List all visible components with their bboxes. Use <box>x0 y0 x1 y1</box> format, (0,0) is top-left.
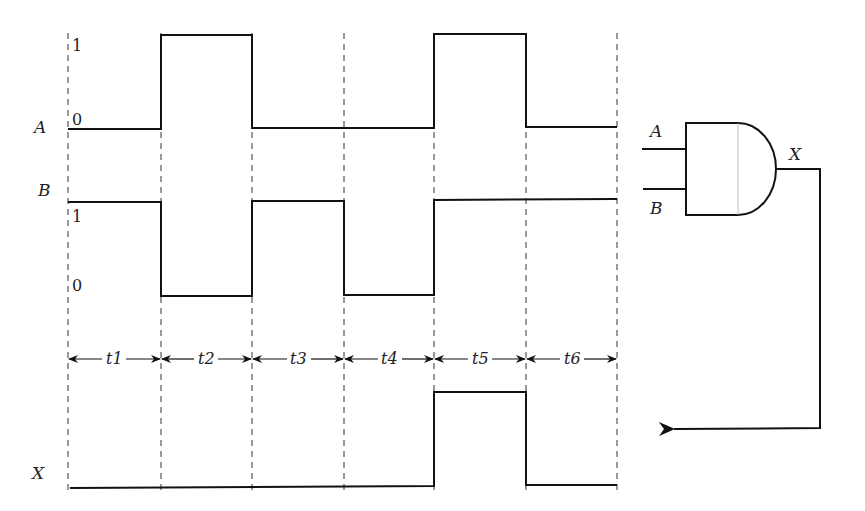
interval-label-t2: t2 <box>198 349 215 368</box>
b-high-label: 1 <box>72 207 82 226</box>
signal-label-a: A <box>32 117 46 137</box>
interval-label-t4: t4 <box>381 349 398 368</box>
timing-diagram: A 1 0 B 1 0 X t1 t2 t3 t4 t5 t6 <box>0 0 865 511</box>
interval-label-t6: t6 <box>564 349 581 368</box>
time-dividers <box>68 33 617 490</box>
b-low-label: 0 <box>72 276 82 295</box>
signal-label-b: B <box>37 180 51 200</box>
waveform-a <box>68 34 617 129</box>
interval-label-t1: t1 <box>106 349 123 368</box>
signal-label-x: X <box>30 463 45 483</box>
and-gate-icon <box>642 123 820 429</box>
waveform-b <box>68 199 617 296</box>
a-high-label: 1 <box>72 36 82 55</box>
gate-output-x-label: X <box>787 144 802 164</box>
a-low-label: 0 <box>72 110 82 129</box>
interval-label-t5: t5 <box>472 349 489 368</box>
gate-input-b-label: B <box>649 198 663 218</box>
gate-input-a-label: A <box>648 121 662 141</box>
interval-label-t3: t3 <box>290 349 307 368</box>
